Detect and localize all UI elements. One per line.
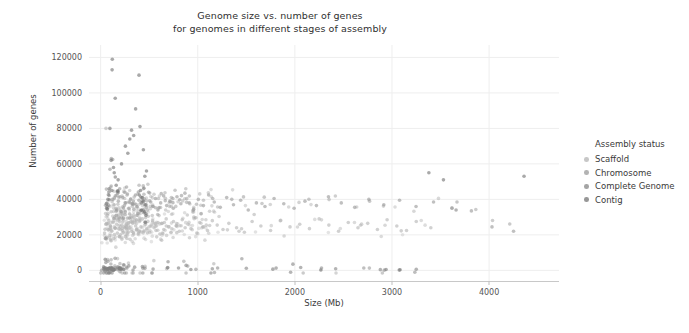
data-point [360,222,364,226]
data-point [106,217,110,221]
data-point [182,260,186,264]
data-point [212,262,216,266]
legend-item-scaffold[interactable]: Scaffold [578,153,688,167]
data-point [123,197,127,201]
plot-area [89,45,559,281]
data-point [175,222,179,226]
data-point [146,183,150,187]
data-point [116,189,120,193]
data-point [114,245,118,249]
data-point [105,206,109,210]
data-point [112,166,116,170]
data-point [242,195,246,199]
y-tick-label: 0 [20,266,82,275]
data-point [194,235,198,239]
data-point [212,200,216,204]
data-point [199,221,203,225]
data-point [199,212,203,216]
data-point [432,200,436,204]
data-point [109,239,113,243]
data-point [132,195,136,199]
data-point [334,271,338,275]
data-point [225,196,229,200]
data-point [163,191,167,195]
data-point [353,221,357,225]
data-point [208,224,212,228]
data-point [217,215,221,219]
y-tick-label: 120000 [20,53,82,62]
legend-item-contig[interactable]: Contig [578,193,688,207]
data-point [105,268,109,272]
data-point [123,191,127,195]
data-point [104,222,108,226]
data-point [385,218,389,222]
data-point [474,208,478,212]
legend: Assembly status ScaffoldChromosomeComple… [578,139,688,207]
data-point [366,222,370,226]
data-point [105,237,109,241]
data-point [131,271,135,275]
data-point [103,227,107,231]
data-point [269,229,273,233]
data-point [167,225,171,229]
data-point [132,207,136,211]
data-point [208,209,212,213]
data-point [362,266,366,270]
data-point [108,167,112,171]
data-point [454,208,458,212]
data-point [169,230,173,234]
data-point [262,195,266,199]
data-point [442,178,446,182]
data-point [211,267,215,271]
data-point [118,267,122,271]
data-point [437,197,441,201]
x-tick-mark [100,281,101,285]
x-tick-label: 0 [98,288,103,297]
legend-dot [584,197,589,202]
data-point [113,96,117,100]
data-point [315,204,319,208]
data-point [287,205,291,209]
data-point [216,266,220,270]
data-point [130,128,134,132]
data-point [142,192,146,196]
data-point [307,197,311,201]
data-point [104,203,108,207]
data-point [339,201,343,205]
data-point [313,218,317,222]
data-point [379,235,383,239]
data-point [109,159,113,163]
data-point [183,226,187,230]
x-tick-label: 1000 [188,288,208,297]
legend-item-complete-genome[interactable]: Complete Genome [578,180,688,194]
data-point [172,220,176,224]
data-point [289,270,293,274]
data-point [211,219,215,223]
data-point [334,267,338,271]
data-point [182,233,186,237]
legend-marker-icon [578,157,595,162]
data-point [139,230,143,234]
data-point [156,213,160,217]
data-point [122,263,126,267]
data-point [164,196,168,200]
data-point [105,241,109,245]
data-point [165,267,169,271]
data-point [163,221,167,225]
data-point [107,194,111,198]
data-point [127,206,131,210]
data-point [399,229,403,233]
scatter-chart-figure: Genome size vs. number of genes for geno… [0,0,689,333]
data-point [255,201,259,205]
data-point [138,216,142,220]
data-point [143,267,147,271]
data-point [379,268,383,272]
legend-title: Assembly status [595,139,688,149]
data-point [192,210,196,214]
legend-items: ScaffoldChromosomeComplete GenomeContig [578,153,688,207]
data-point [299,266,303,270]
data-point [115,208,119,212]
data-point [135,222,139,226]
data-point [140,196,144,200]
legend-item-chromosome[interactable]: Chromosome [578,166,688,180]
